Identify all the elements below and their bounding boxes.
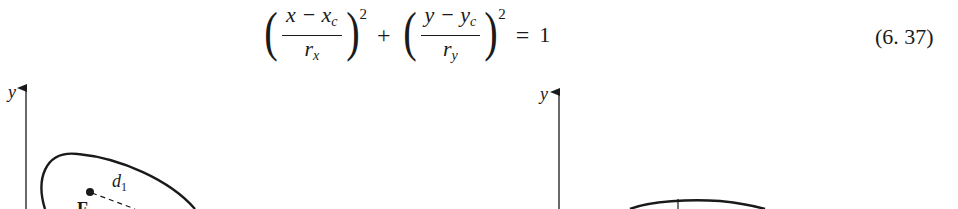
y-axis-label-left: y — [6, 82, 16, 102]
y-axis-label-right: y — [538, 84, 548, 104]
ellipse-right — [630, 200, 765, 209]
right-figure: y — [538, 84, 765, 209]
left-figure: y d1 F — [6, 82, 195, 209]
figures: y d1 F y — [0, 0, 958, 209]
focus-point — [86, 188, 94, 196]
focus-label: F — [77, 199, 88, 209]
distance-label: d1 — [112, 171, 127, 194]
distance-line — [92, 193, 135, 209]
